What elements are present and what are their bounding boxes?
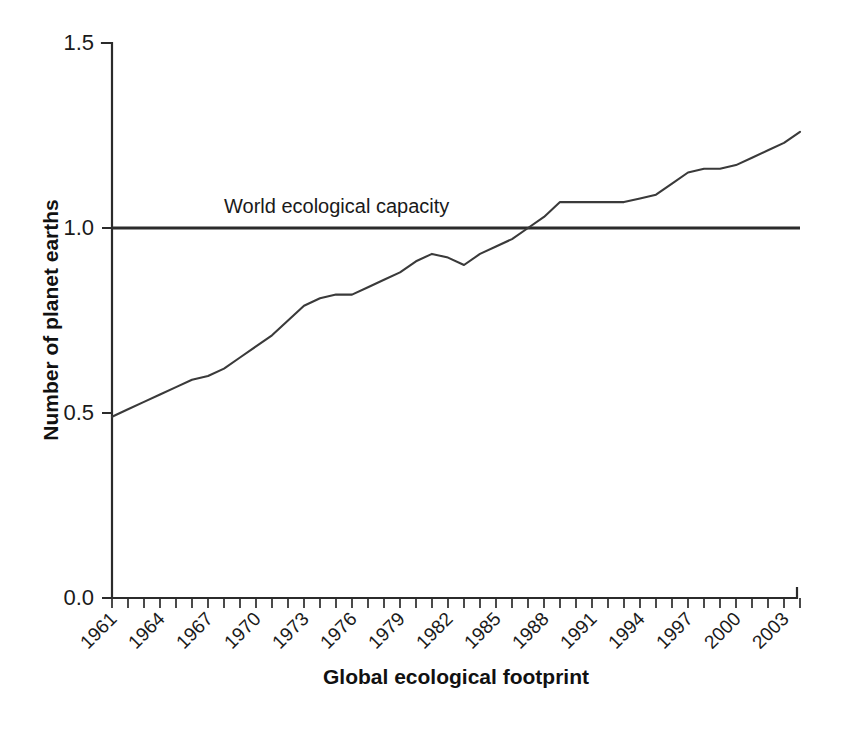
- chart-annotations: World ecological capacity: [224, 195, 449, 217]
- y-tick-label-0.0: 0.0: [63, 585, 94, 610]
- annotation-world-ecological-capacity: World ecological capacity: [224, 195, 449, 217]
- x-tick-label-1991: 1991: [556, 608, 601, 653]
- x-tick-label-1988: 1988: [508, 608, 553, 653]
- y-axis-ticks: [102, 43, 112, 598]
- x-tick-label-1994: 1994: [604, 608, 649, 653]
- x-axis-title: Global ecological footprint: [323, 665, 589, 688]
- x-tick-label-1979: 1979: [364, 608, 409, 653]
- x-tick-label-1982: 1982: [412, 608, 457, 653]
- x-tick-label-1973: 1973: [268, 608, 313, 653]
- y-tick-label-0.5: 0.5: [63, 400, 94, 425]
- y-axis-tick-labels: 0.00.51.01.5: [63, 30, 94, 610]
- x-tick-label-1961: 1961: [76, 608, 121, 653]
- x-tick-label-1997: 1997: [652, 608, 697, 653]
- ecological-footprint-chart: 0.00.51.01.5 196119641967197019731976197…: [0, 0, 841, 729]
- x-tick-label-1964: 1964: [124, 608, 169, 653]
- y-axis-line: [102, 43, 112, 598]
- x-tick-label-1970: 1970: [220, 608, 265, 653]
- x-tick-label-2003: 2003: [748, 608, 793, 653]
- x-axis-tick-labels: 1961196419671970197319761979198219851988…: [76, 608, 793, 653]
- x-tick-label-1976: 1976: [316, 608, 361, 653]
- y-tick-label-1.5: 1.5: [63, 30, 94, 55]
- x-axis-line: [112, 588, 797, 598]
- global-ecological-footprint-line: [112, 132, 800, 417]
- x-tick-label-1967: 1967: [172, 608, 217, 653]
- x-tick-label-2000: 2000: [700, 608, 745, 653]
- y-tick-label-1.0: 1.0: [63, 215, 94, 240]
- x-tick-label-1985: 1985: [460, 608, 505, 653]
- x-axis-minor-ticks: [112, 598, 800, 608]
- chart-canvas: 0.00.51.01.5 196119641967197019731976197…: [0, 0, 841, 729]
- y-axis-title: Number of planet earths: [39, 199, 62, 441]
